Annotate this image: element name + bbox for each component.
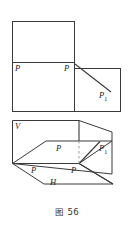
- top-upper-rectangle: [13, 22, 75, 63]
- label-p-lower-right-3d: P: [71, 166, 76, 175]
- label-p1-3d-subscript: 1: [104, 149, 107, 155]
- v-plane-outline: [13, 121, 113, 175]
- label-v-plane: V: [15, 122, 20, 131]
- bottom-diagram-group: [13, 121, 114, 185]
- h-plane-outline: [13, 164, 114, 185]
- label-p-left-top: P: [15, 64, 20, 73]
- label-p1-3d: P1: [99, 144, 107, 155]
- label-p-center-top: P: [64, 64, 69, 73]
- label-p-upper-3d: P: [56, 144, 61, 153]
- figure-56-container: P P P1 V P P1 P P H 图 56: [0, 0, 134, 231]
- figure-drawing: [0, 0, 134, 231]
- top-right-lower-rectangle: [75, 69, 121, 112]
- figure-caption: 图 56: [0, 205, 134, 217]
- pp1-upper-edge: [79, 142, 100, 164]
- label-p-lower-left-3d: P: [31, 166, 36, 175]
- label-h-plane: H: [50, 178, 56, 187]
- label-p1-top: P1: [99, 91, 107, 102]
- label-p1-top-subscript: 1: [104, 96, 107, 102]
